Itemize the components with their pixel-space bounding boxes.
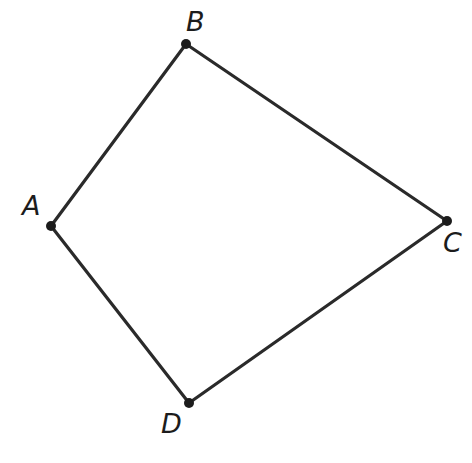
edge-cd (189, 221, 447, 403)
vertex-label-c: C (443, 229, 462, 256)
geometry-figure: ABCD (0, 0, 472, 463)
quadrilateral-canvas (0, 0, 472, 463)
vertex-point-c (442, 216, 452, 226)
edge-ab (51, 44, 186, 226)
vertex-point-b (181, 39, 191, 49)
vertices-group (46, 39, 452, 408)
vertex-label-a: A (22, 192, 40, 219)
vertex-point-d (184, 398, 194, 408)
vertex-label-b: B (186, 8, 205, 35)
edge-bc (186, 44, 447, 221)
vertex-point-a (46, 221, 56, 231)
edge-da (51, 226, 189, 403)
edges-group (51, 44, 447, 403)
vertex-label-d: D (161, 410, 182, 437)
